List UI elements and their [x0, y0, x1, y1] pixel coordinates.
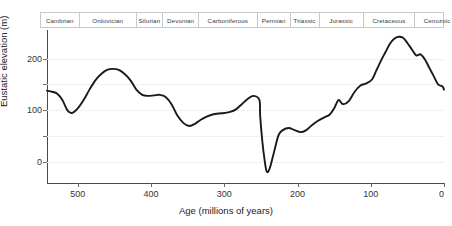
x-tick-500 — [78, 183, 79, 187]
x-tick-label-500: 500 — [70, 189, 85, 199]
x-tick-100 — [371, 183, 372, 187]
period-cell-devonian: Devonian — [163, 13, 199, 27]
period-cell-cambrian: Cambrian — [41, 13, 80, 27]
y-tick-label-100: 100 — [0, 105, 42, 115]
eustatic-sea-level-chart: CambrianOrdovicianSilurianDevonianCarbon… — [0, 0, 452, 226]
geologic-period-strip: CambrianOrdovicianSilurianDevonianCarbon… — [40, 12, 444, 28]
period-cell-cretaceous: Cretaceous — [364, 13, 415, 27]
y-tick-label-200: 200 — [0, 54, 42, 64]
x-tick-400 — [151, 183, 152, 187]
period-cell-carboniferous: Carboniferous — [199, 13, 258, 27]
x-tick-0 — [444, 183, 445, 187]
sea-level-curve-path — [47, 37, 444, 173]
y-tick-label-0: 0 — [0, 157, 42, 167]
period-cell-triassic: Triassic — [291, 13, 320, 27]
x-tick-200 — [298, 183, 299, 187]
period-cell-silurian: Silurian — [137, 13, 164, 27]
x-tick-label-400: 400 — [143, 189, 158, 199]
x-axis-ticks: 5004003002001000 — [47, 183, 444, 203]
x-tick-label-0: 0 — [439, 189, 444, 199]
plot-area: 5004003002001000 — [47, 30, 444, 183]
period-cell-jurassic: Jurassic — [320, 13, 364, 27]
sea-level-curve-svg — [47, 30, 444, 183]
period-cell-cenozoic: Cenozoic — [415, 13, 452, 27]
x-tick-label-300: 300 — [217, 189, 232, 199]
x-tick-label-100: 100 — [363, 189, 378, 199]
period-cell-ordovician: Ordovician — [80, 13, 137, 27]
period-cell-permian: Permian — [258, 13, 291, 27]
x-axis-title: Age (millions of years) — [0, 205, 452, 216]
x-tick-label-200: 200 — [290, 189, 305, 199]
x-tick-300 — [224, 183, 225, 187]
